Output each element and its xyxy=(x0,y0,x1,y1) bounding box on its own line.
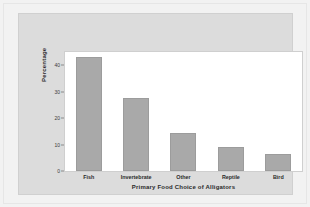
bars-layer xyxy=(65,52,302,171)
bar-slot xyxy=(255,52,302,171)
x-axis-title: Primary Food Choice of Alligators xyxy=(64,184,303,190)
y-tick-label: 40 xyxy=(54,62,60,68)
y-tick-mark xyxy=(61,144,64,145)
y-tick-label: 0 xyxy=(57,168,60,174)
x-tick-label-invertebrate: Invertebrate xyxy=(121,174,152,180)
bar-slot xyxy=(65,52,112,171)
y-tick-label: 10 xyxy=(54,142,60,148)
bar-bird[interactable] xyxy=(265,154,291,171)
y-tick-mark xyxy=(61,118,64,119)
chart-screenshot: 010203040 Percentage FishInvertebrateOth… xyxy=(0,0,310,207)
bar-other[interactable] xyxy=(170,133,196,171)
bar-slot xyxy=(207,52,254,171)
y-axis: 010203040 xyxy=(47,51,64,172)
y-axis-title: Percentage xyxy=(41,48,47,82)
bar-slot xyxy=(112,52,159,171)
x-tick-label-reptile: Reptile xyxy=(222,174,240,180)
y-tick-label: 30 xyxy=(54,89,60,95)
bar-invertebrate[interactable] xyxy=(123,98,149,171)
x-tick-label-fish: Fish xyxy=(83,174,94,180)
x-axis: FishInvertebrateOtherReptileBird xyxy=(65,174,302,184)
y-tick-mark xyxy=(61,65,64,66)
bar-fish[interactable] xyxy=(76,57,102,171)
y-tick-mark xyxy=(61,91,64,92)
bar-reptile[interactable] xyxy=(218,147,244,171)
y-tick-mark xyxy=(61,171,64,172)
y-tick-label: 20 xyxy=(54,115,60,121)
x-tick-label-bird: Bird xyxy=(273,174,284,180)
x-tick-label-other: Other xyxy=(176,174,190,180)
bar-slot xyxy=(160,52,207,171)
figure-panel: 010203040 Percentage FishInvertebrateOth… xyxy=(18,13,293,195)
